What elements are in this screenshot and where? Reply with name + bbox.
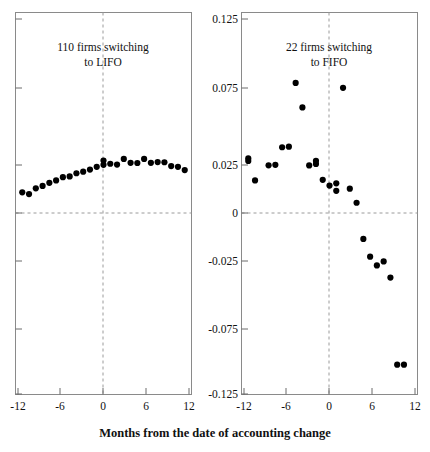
- figure-container: 110 firms switching to LIFO -12: [0, 0, 430, 452]
- right-xtick-label-3: 6: [369, 400, 375, 412]
- data-point: [53, 177, 59, 183]
- data-point: [94, 164, 100, 170]
- data-point: [100, 162, 106, 168]
- data-point: [326, 183, 332, 189]
- data-point: [182, 167, 188, 173]
- left-xtick-label-0: -12: [10, 400, 26, 412]
- left-panel-reference-lines: [16, 13, 192, 395]
- data-point: [80, 169, 86, 175]
- data-point: [381, 258, 387, 264]
- scatter-chart-figure: 110 firms switching to LIFO -12: [0, 0, 430, 452]
- right-panel-reference-lines: [242, 13, 418, 395]
- right-xtick-label-0: -12: [236, 400, 252, 412]
- data-point: [299, 104, 305, 110]
- left-panel-y-ticks: [16, 19, 23, 394]
- right-panel: 22 firms switching to FIFO -12: [236, 13, 421, 413]
- data-point: [33, 185, 39, 191]
- data-point: [148, 160, 154, 166]
- right-panel-x-ticklabels: -12 -6 0 6 12: [236, 400, 421, 412]
- data-point: [67, 173, 73, 179]
- left-panel-title-line1: 110 firms switching: [57, 41, 149, 54]
- data-point: [265, 162, 271, 168]
- data-point: [340, 85, 346, 91]
- right-xtick-label-1: -6: [281, 400, 291, 412]
- data-point: [320, 177, 326, 183]
- data-point: [155, 159, 161, 165]
- data-point: [168, 163, 174, 169]
- data-point: [87, 166, 93, 172]
- data-point: [347, 186, 353, 192]
- left-xtick-label-3: 6: [143, 400, 149, 412]
- data-point: [39, 183, 45, 189]
- right-panel-title-line1: 22 firms switching: [286, 41, 372, 54]
- data-point: [107, 161, 113, 167]
- data-point: [134, 160, 140, 166]
- data-point: [401, 362, 407, 368]
- ytick-label-1: 0.075: [212, 82, 238, 94]
- data-point: [394, 362, 400, 368]
- left-panel: 110 firms switching to LIFO -12: [10, 13, 195, 413]
- data-point: [127, 160, 133, 166]
- data-point: [19, 189, 25, 195]
- data-point: [360, 236, 366, 242]
- data-point: [73, 170, 79, 176]
- data-point: [306, 162, 312, 168]
- data-point: [333, 180, 339, 186]
- data-point: [353, 200, 359, 206]
- figure-caption: Months from the date of accounting chang…: [99, 426, 331, 440]
- ytick-label-0: 0.125: [212, 13, 238, 25]
- left-xtick-label-2: 0: [100, 400, 106, 412]
- right-panel-title-line2: to FIFO: [311, 56, 348, 68]
- ytick-label-6: -0.125: [208, 388, 238, 400]
- data-point: [279, 144, 285, 150]
- data-point: [367, 254, 373, 260]
- data-point: [387, 275, 393, 281]
- right-panel-data-points: [245, 80, 407, 368]
- data-point: [161, 159, 167, 165]
- left-panel-title-line2: to LIFO: [84, 56, 121, 68]
- data-point: [374, 262, 380, 268]
- ytick-label-5: -0.075: [208, 323, 238, 335]
- data-point: [141, 156, 147, 162]
- data-point: [175, 164, 181, 170]
- right-panel-y-ticks: [242, 19, 249, 394]
- data-point: [26, 191, 32, 197]
- left-xtick-label-4: 12: [183, 400, 195, 412]
- data-point: [46, 180, 52, 186]
- right-xtick-label-4: 12: [409, 400, 421, 412]
- left-panel-x-ticks: [18, 388, 189, 395]
- shared-y-ticklabels: 0.125 0.075 0.025 0 -0.025 -0.075 -0.125: [208, 13, 238, 400]
- data-point: [60, 174, 66, 180]
- ytick-label-2: 0.025: [212, 159, 238, 171]
- ytick-label-4: -0.025: [208, 255, 238, 267]
- right-xtick-label-2: 0: [326, 400, 332, 412]
- data-point: [114, 161, 120, 167]
- data-point: [121, 156, 127, 162]
- data-point: [333, 188, 339, 194]
- left-xtick-label-1: -6: [55, 400, 65, 412]
- data-point: [286, 144, 292, 150]
- data-point: [245, 158, 251, 164]
- left-panel-x-ticklabels: -12 -6 0 6 12: [10, 400, 195, 412]
- data-point: [252, 177, 258, 183]
- ytick-label-3: 0: [232, 207, 238, 219]
- data-point: [293, 80, 299, 86]
- data-point: [272, 162, 278, 168]
- data-point: [313, 161, 319, 167]
- right-panel-x-ticks: [244, 388, 415, 395]
